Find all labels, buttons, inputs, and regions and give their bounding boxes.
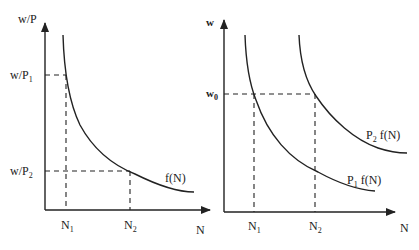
right-x-axis-label: N — [400, 222, 409, 234]
curve-pre: P — [366, 128, 373, 142]
tick-base: N — [309, 219, 318, 233]
label-p1f: P1 f(N) — [347, 174, 381, 189]
tick-base: w/P — [10, 68, 29, 82]
tick-n2-left: N2 — [124, 219, 137, 234]
tick-w-p1: w/P1 — [10, 69, 33, 84]
right-y-axis-label: w — [206, 17, 214, 28]
diagram-canvas — [0, 0, 419, 250]
tick-base: N — [124, 218, 133, 232]
tick-n1-right: N1 — [248, 220, 261, 235]
tick-base: w — [206, 87, 214, 99]
tick-sub: 1 — [29, 75, 33, 84]
tick-sub: 1 — [257, 226, 261, 235]
tick-n1-left: N1 — [61, 219, 74, 234]
left-y-axis-label: w/P — [18, 13, 37, 25]
tick-sub: 1 — [70, 225, 74, 234]
curve-f — [63, 35, 194, 192]
label-p2f: P2 f(N) — [366, 129, 400, 144]
tick-base: w/P — [10, 164, 29, 178]
curve-post: f(N) — [377, 128, 401, 142]
right-guides — [224, 94, 315, 212]
tick-base: N — [248, 219, 257, 233]
label-f: f(N) — [165, 172, 186, 184]
tick-sub: 2 — [29, 171, 33, 180]
tick-sub: 2 — [318, 226, 322, 235]
tick-w0: w0 — [206, 88, 218, 102]
curve-p1f — [245, 35, 375, 191]
curve-pre: P — [347, 173, 354, 187]
tick-w-p2: w/P2 — [10, 165, 33, 180]
tick-sub: 2 — [133, 225, 137, 234]
tick-n2-right: N2 — [309, 220, 322, 235]
left-x-axis-label: N — [196, 224, 205, 236]
tick-base: N — [61, 218, 70, 232]
left-guides — [45, 75, 130, 210]
tick-sub: 0 — [214, 93, 218, 102]
curve-post: f(N) — [358, 173, 382, 187]
